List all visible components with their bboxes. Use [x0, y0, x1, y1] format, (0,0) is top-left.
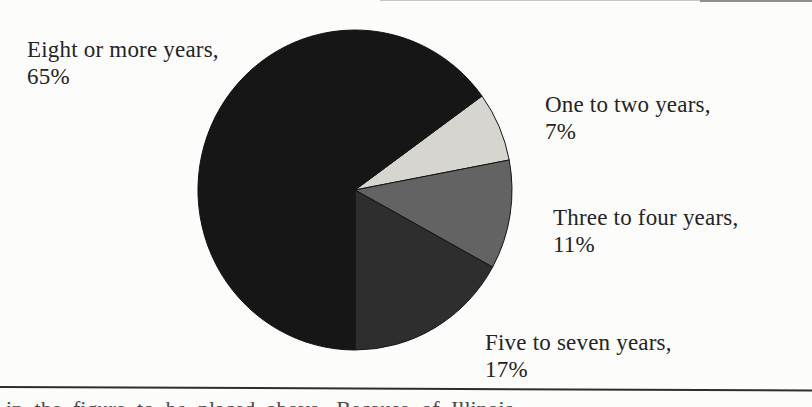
pie-label-one-to-two-value: 7%: [545, 118, 711, 145]
cropped-caption-fragment: in the figure to be placed above. Becaus…: [6, 396, 812, 407]
pie-label-eight-or-more-value: 65%: [27, 63, 219, 90]
pie-label-five-to-seven-line1: Five to seven years,: [485, 329, 672, 356]
pie-label-one-to-two: One to two years, 7%: [545, 91, 711, 145]
pie-label-three-to-four-value: 11%: [553, 231, 738, 258]
pie-label-eight-or-more-line1: Eight or more years,: [27, 36, 219, 63]
pie-label-three-to-four-line1: Three to four years,: [553, 204, 738, 231]
pie-label-five-to-seven-value: 17%: [485, 356, 672, 383]
pie-label-five-to-seven: Five to seven years, 17%: [485, 329, 672, 383]
pie-label-one-to-two-line1: One to two years,: [545, 91, 711, 118]
pie-label-eight-or-more: Eight or more years, 65%: [27, 36, 219, 90]
pie-label-three-to-four: Three to four years, 11%: [553, 204, 738, 258]
scanned-figure-page: Eight or more years, 65% One to two year…: [0, 0, 812, 407]
